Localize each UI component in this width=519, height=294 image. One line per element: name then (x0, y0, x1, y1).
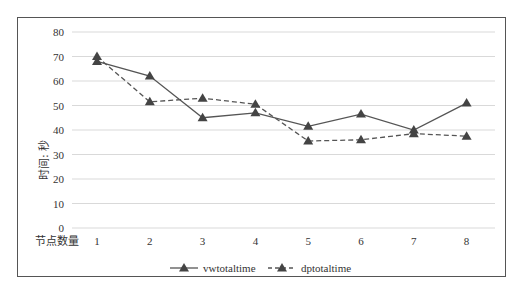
x-tick-label: 7 (411, 235, 417, 247)
triangle-marker-icon (462, 98, 472, 107)
y-tick-label: 40 (53, 124, 65, 136)
legend-label: vwtotaltime (203, 262, 256, 274)
x-tick-label: 5 (305, 235, 311, 247)
y-tick-label: 20 (53, 173, 65, 185)
x-tick-label: 2 (147, 235, 153, 247)
triangle-marker-icon (92, 52, 102, 61)
y-tick-label: 60 (53, 75, 65, 87)
legend: vwtotaltimedptotaltime (170, 262, 351, 274)
y-tick-label: 80 (53, 26, 65, 38)
x-tick-label: 8 (464, 235, 470, 247)
y-tick-label: 50 (53, 100, 65, 112)
legend-item-dptotaltime: dptotaltime (268, 262, 351, 274)
triangle-marker-icon (303, 136, 313, 145)
triangle-marker-icon (356, 109, 366, 118)
triangle-marker-icon (198, 93, 208, 102)
data-series (92, 52, 472, 145)
x-axis-title: 节点数量 (35, 235, 79, 248)
y-axis-title: 时间: 秒 (37, 140, 51, 180)
triangle-marker-icon (179, 263, 189, 272)
series-line (97, 61, 467, 130)
triangle-marker-icon (277, 263, 287, 272)
series-line (97, 57, 467, 142)
y-tick-label: 0 (59, 222, 65, 234)
x-axis-ticks: 12345678 (94, 235, 470, 247)
line-chart: 01020304050607080 12345678 节点数量 时间: 秒 vw… (0, 0, 519, 294)
x-tick-label: 3 (200, 235, 206, 247)
x-tick-label: 6 (358, 235, 364, 247)
triangle-marker-icon (250, 108, 260, 117)
x-tick-label: 4 (253, 235, 259, 247)
gridlines (72, 32, 495, 228)
y-tick-label: 30 (53, 149, 65, 161)
series-dptotaltime (92, 52, 472, 145)
series-vwtotaltime (92, 56, 472, 133)
y-tick-label: 10 (53, 198, 65, 210)
legend-item-vwtotaltime: vwtotaltime (170, 262, 256, 274)
legend-label: dptotaltime (301, 262, 351, 274)
y-axis-ticks: 01020304050607080 (53, 26, 65, 234)
y-tick-label: 70 (53, 51, 65, 63)
x-tick-label: 1 (94, 235, 100, 247)
